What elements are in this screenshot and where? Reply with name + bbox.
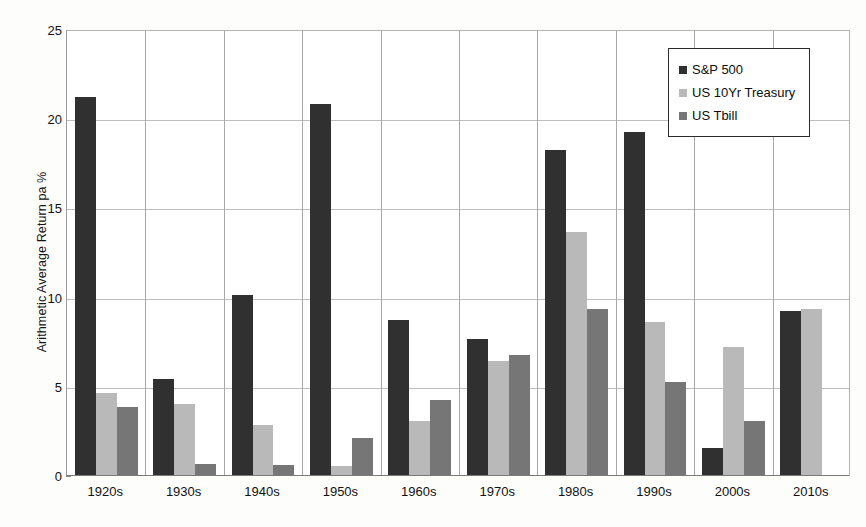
bar	[253, 425, 274, 475]
bar-group	[388, 31, 451, 475]
bar	[488, 361, 509, 475]
legend-item: US 10Yr Treasury	[679, 81, 795, 104]
gridline	[302, 31, 303, 475]
y-axis-tick-label: 20	[22, 112, 62, 127]
x-axis-tick-label: 2010s	[793, 484, 828, 499]
bar	[232, 295, 253, 475]
bar	[665, 382, 686, 475]
bar	[509, 355, 530, 475]
bar	[645, 322, 666, 475]
y-axis-tick-label: 15	[22, 201, 62, 216]
bar	[409, 421, 430, 475]
bar-group	[310, 31, 373, 475]
x-axis-tick-label: 1940s	[244, 484, 279, 499]
bar	[310, 104, 331, 475]
bar	[195, 464, 216, 475]
legend-label: US 10Yr Treasury	[692, 85, 795, 100]
bar-group	[467, 31, 530, 475]
bar	[702, 448, 723, 475]
x-axis-tick-label: 1990s	[636, 484, 671, 499]
x-axis-tick-label: 1950s	[323, 484, 358, 499]
legend-item: S&P 500	[679, 58, 795, 81]
gridline	[381, 31, 382, 475]
x-axis-tick-label: 1980s	[558, 484, 593, 499]
bar	[117, 407, 138, 475]
legend-swatch-icon	[679, 112, 687, 120]
y-axis-tick-label: 25	[22, 23, 62, 38]
bar	[467, 339, 488, 475]
bar	[545, 150, 566, 475]
y-axis-tick-labels: 0510152025	[16, 30, 62, 476]
bar	[388, 320, 409, 475]
bar	[352, 438, 373, 475]
x-axis-tick-label: 1960s	[401, 484, 436, 499]
bar	[96, 393, 117, 475]
x-axis-tick-labels: 1920s1930s1940s1950s1960s1970s1980s1990s…	[66, 484, 850, 514]
bar	[153, 379, 174, 475]
bar	[430, 400, 451, 475]
chart-legend: S&P 500 US 10Yr Treasury US Tbill	[668, 48, 810, 137]
legend-label: S&P 500	[692, 62, 743, 77]
gridline	[224, 31, 225, 475]
gridline	[145, 31, 146, 475]
legend-swatch-icon	[679, 66, 687, 74]
bar	[587, 309, 608, 475]
bar-group	[153, 31, 216, 475]
y-axis-tick-label: 0	[22, 469, 62, 484]
gridline	[616, 31, 617, 475]
gridline	[459, 31, 460, 475]
y-axis-tick-label: 10	[22, 290, 62, 305]
y-axis-tick-label: 5	[22, 379, 62, 394]
legend-swatch-icon	[679, 89, 687, 97]
bar	[174, 404, 195, 475]
legend-label: US Tbill	[692, 108, 737, 123]
bar	[801, 309, 822, 475]
bar-group	[75, 31, 138, 475]
bar	[744, 421, 765, 475]
bar-group	[232, 31, 295, 475]
bar	[75, 97, 96, 475]
bar	[780, 311, 801, 475]
x-axis-tick-label: 2000s	[715, 484, 750, 499]
bar	[273, 465, 294, 475]
x-axis-tick-label: 1970s	[479, 484, 514, 499]
bar	[723, 347, 744, 475]
bar-group	[545, 31, 608, 475]
x-axis-tick-label: 1920s	[87, 484, 122, 499]
bar-chart: Arithmetic Average Return pa % 051015202…	[0, 0, 866, 527]
y-axis-tick-mark	[66, 476, 71, 477]
bar	[624, 132, 645, 475]
legend-item: US Tbill	[679, 104, 795, 127]
x-axis-tick-label: 1930s	[166, 484, 201, 499]
bar	[331, 466, 352, 475]
gridline	[537, 31, 538, 475]
bar	[566, 232, 587, 475]
